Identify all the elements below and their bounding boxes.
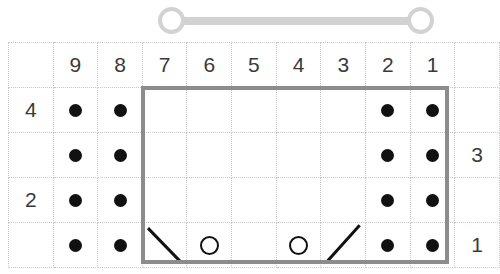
grid-row: 3 xyxy=(9,133,500,178)
dot-icon xyxy=(381,149,394,162)
column-header-label: 2 xyxy=(366,43,410,87)
grid-cell-empty[interactable] xyxy=(232,223,277,268)
column-header-label: 9 xyxy=(54,43,98,87)
column-header-label: 1 xyxy=(411,43,455,87)
column-header-label: 7 xyxy=(143,43,187,87)
dot-icon xyxy=(69,104,82,117)
grid-cell-empty[interactable] xyxy=(142,133,187,178)
grid-cell-backslash[interactable] xyxy=(142,223,187,268)
dot-icon xyxy=(69,239,82,252)
row-label: 3 xyxy=(455,133,499,177)
slider-track[interactable] xyxy=(176,17,416,25)
column-header-blank xyxy=(455,43,500,88)
grid-cell-empty[interactable] xyxy=(232,133,277,178)
grid-row: 4 xyxy=(9,88,500,133)
row-label-right-blank xyxy=(455,178,500,223)
column-header-3: 3 xyxy=(321,43,366,88)
slider-knob-left[interactable] xyxy=(158,7,185,34)
grid-cell-dot[interactable] xyxy=(410,88,455,133)
column-header-7: 7 xyxy=(142,43,187,88)
dot-icon xyxy=(426,149,439,162)
grid-cell-dot[interactable] xyxy=(53,223,98,268)
grid-cell-empty[interactable] xyxy=(321,88,366,133)
backslash-icon xyxy=(143,223,187,267)
dot-icon xyxy=(381,239,394,252)
dot-icon xyxy=(69,149,82,162)
dot-icon xyxy=(114,104,127,117)
column-header-1: 1 xyxy=(410,43,455,88)
grid-cell-dot[interactable] xyxy=(98,223,143,268)
grid-cell-dot[interactable] xyxy=(98,178,143,223)
grid-header-row: 987654321 xyxy=(9,43,500,88)
grid-cell-ring[interactable] xyxy=(276,223,321,268)
grid-row: 2 xyxy=(9,178,500,223)
row-label: 4 xyxy=(9,88,53,132)
dot-icon xyxy=(69,194,82,207)
grid-cell-empty[interactable] xyxy=(187,88,232,133)
grid-cell-empty[interactable] xyxy=(321,178,366,223)
grid-cell-dot[interactable] xyxy=(98,133,143,178)
column-header-9: 9 xyxy=(53,43,98,88)
row-label-right-blank xyxy=(455,88,500,133)
column-header-6: 6 xyxy=(187,43,232,88)
dot-icon xyxy=(114,194,127,207)
grid-cell-empty[interactable] xyxy=(187,133,232,178)
column-header-label: 5 xyxy=(232,43,276,87)
grid-cell-empty[interactable] xyxy=(276,133,321,178)
row-label-left-4: 4 xyxy=(9,88,54,133)
dot-icon xyxy=(426,194,439,207)
column-header-2: 2 xyxy=(366,43,411,88)
row-label-right-1: 1 xyxy=(455,223,500,268)
grid-cell-dot[interactable] xyxy=(53,178,98,223)
dot-icon xyxy=(426,104,439,117)
grid-cell-empty[interactable] xyxy=(142,178,187,223)
grid-cell-empty[interactable] xyxy=(321,133,366,178)
grid-cell-dot[interactable] xyxy=(366,88,411,133)
circle-icon xyxy=(200,236,219,255)
grid-cell-dot[interactable] xyxy=(366,223,411,268)
grid-cell-dot[interactable] xyxy=(53,88,98,133)
grid-cell-dot[interactable] xyxy=(366,133,411,178)
row-label-left-blank xyxy=(9,223,54,268)
column-header-label: 8 xyxy=(98,43,142,87)
column-header-blank xyxy=(9,43,54,88)
grid-cell-empty[interactable] xyxy=(232,88,277,133)
puzzle-grid[interactable]: 9876543214321 xyxy=(8,42,500,268)
grid-cell-ring[interactable] xyxy=(187,223,232,268)
grid-cell-dot[interactable] xyxy=(53,133,98,178)
grid-cell-empty[interactable] xyxy=(187,178,232,223)
dot-icon xyxy=(381,194,394,207)
column-header-8: 8 xyxy=(98,43,143,88)
grid-row: 1 xyxy=(9,223,500,268)
row-label-left-2: 2 xyxy=(9,178,54,223)
dot-icon xyxy=(381,104,394,117)
row-label: 1 xyxy=(455,223,499,267)
range-slider[interactable] xyxy=(158,6,434,36)
grid-cell-slash[interactable] xyxy=(321,223,366,268)
dot-icon xyxy=(426,239,439,252)
dot-icon xyxy=(114,149,127,162)
row-label: 2 xyxy=(9,178,53,222)
column-header-label: 4 xyxy=(277,43,321,87)
screenshot-root: 9876543214321 xyxy=(0,0,500,274)
grid-cell-empty[interactable] xyxy=(232,178,277,223)
column-header-4: 4 xyxy=(276,43,321,88)
grid-cell-dot[interactable] xyxy=(366,178,411,223)
grid-cell-dot[interactable] xyxy=(410,223,455,268)
grid-cell-empty[interactable] xyxy=(142,88,187,133)
circle-icon xyxy=(289,236,308,255)
grid-cell-dot[interactable] xyxy=(410,133,455,178)
slider-knob-right[interactable] xyxy=(407,7,434,34)
grid-cell-dot[interactable] xyxy=(410,178,455,223)
slash-icon xyxy=(321,223,365,267)
column-header-5: 5 xyxy=(232,43,277,88)
dot-icon xyxy=(114,239,127,252)
row-label-left-blank xyxy=(9,133,54,178)
grid-cell-dot[interactable] xyxy=(98,88,143,133)
grid-cell-empty[interactable] xyxy=(276,178,321,223)
column-header-label: 6 xyxy=(187,43,231,87)
column-header-label: 3 xyxy=(321,43,365,87)
grid-cell-empty[interactable] xyxy=(276,88,321,133)
row-label-right-3: 3 xyxy=(455,133,500,178)
